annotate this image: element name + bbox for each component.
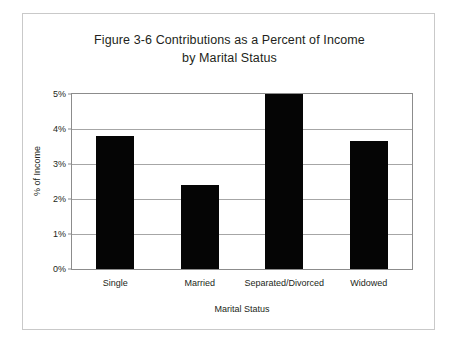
x-tick-label: Widowed [309,278,429,288]
y-tick-label: 4% [53,124,66,134]
y-tick-mark [68,199,72,200]
bar-group: Widowed [327,94,412,269]
y-axis-title: % of Income [32,146,48,196]
bar-group: Separated/Divorced [242,94,327,269]
chart-title: Figure 3-6 Contributions as a Percent of… [23,31,436,67]
y-tick-label: 5% [53,89,66,99]
y-tick-label: 2% [53,194,66,204]
y-tick-label: 1% [53,229,66,239]
y-tick-label: 0% [53,264,66,274]
bar-group: Single [73,94,158,269]
bar [350,141,388,269]
y-tick-mark [68,94,72,95]
y-tick-mark [68,234,72,235]
bar [265,94,303,269]
figure-frame: Figure 3-6 Contributions as a Percent of… [22,13,435,330]
bars-layer: SingleMarriedSeparated/DivorcedWidowed [73,94,411,269]
y-tick-mark [68,164,72,165]
plot-area: 0%1%2%3%4%5% SingleMarriedSeparated/Divo… [71,93,413,270]
chart-title-line-1: Figure 3-6 Contributions as a Percent of… [94,33,365,47]
y-tick-mark [68,269,72,270]
bar [96,136,134,269]
bar-group: Married [158,94,243,269]
y-tick-label: 3% [53,159,66,169]
chart-title-line-2: by Marital Status [23,49,436,67]
bar [181,185,219,269]
x-axis-title: Marital Status [71,304,413,314]
y-tick-mark [68,129,72,130]
